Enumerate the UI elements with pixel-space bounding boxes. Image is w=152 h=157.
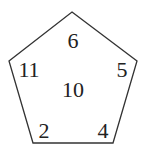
label-center: 10 bbox=[62, 77, 84, 102]
label-left: 11 bbox=[18, 57, 39, 82]
label-bottom-left: 2 bbox=[39, 118, 50, 143]
pentagon-diagram: 6 5 4 2 11 10 bbox=[0, 0, 152, 157]
label-top: 6 bbox=[68, 28, 79, 53]
label-right: 5 bbox=[117, 57, 128, 82]
label-bottom-right: 4 bbox=[98, 118, 109, 143]
